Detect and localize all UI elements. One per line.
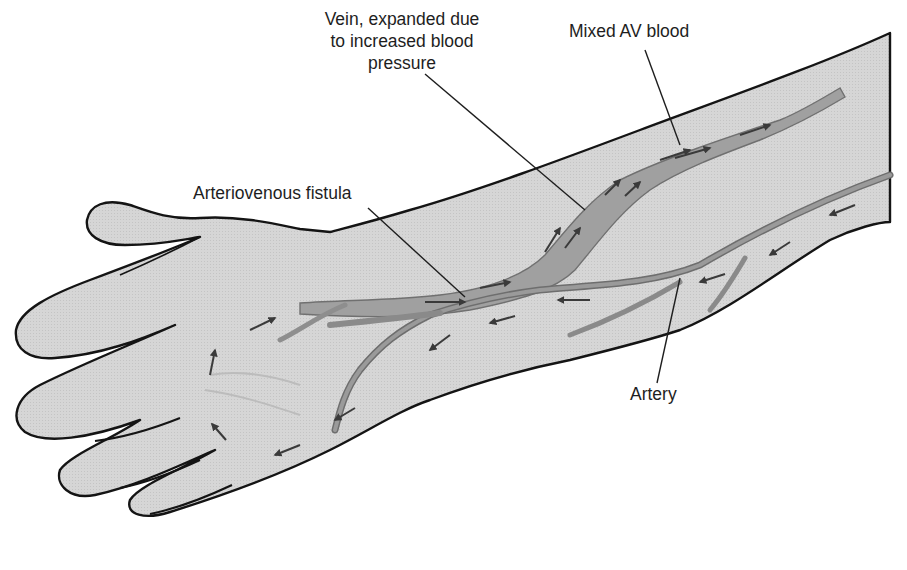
arm-outline (16, 33, 890, 516)
label-vein-line2: to increased blood (262, 30, 542, 52)
label-arteriovenous-fistula: Arteriovenous fistula (193, 182, 352, 204)
label-expanded-vein: Vein, expanded due to increased blood pr… (262, 8, 542, 74)
label-vein-line3: pressure (262, 52, 542, 74)
av-fistula-diagram (0, 0, 907, 570)
label-artery: Artery (630, 383, 677, 405)
label-mixed-av-blood: Mixed AV blood (569, 20, 689, 42)
label-vein-line1: Vein, expanded due (262, 8, 542, 30)
